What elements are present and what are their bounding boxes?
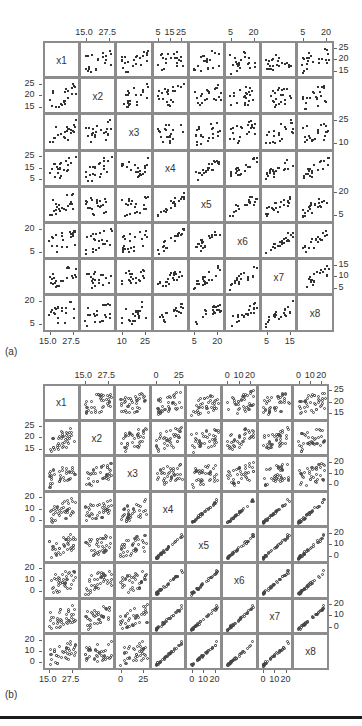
data-point: [119, 398, 122, 401]
data-point: [103, 157, 105, 159]
scatter-cell: [43, 420, 80, 457]
scatter-cell: [43, 222, 80, 259]
scatter-cell: [43, 491, 80, 528]
data-point: [255, 198, 257, 200]
axis-tick-label: 10: [25, 503, 35, 513]
data-point: [101, 406, 104, 409]
data-point: [275, 311, 277, 313]
data-point: [107, 134, 109, 136]
bottom-rule: [0, 716, 362, 719]
data-point: [248, 62, 250, 64]
data-point: [210, 445, 213, 448]
data-point: [314, 480, 317, 483]
data-point: [129, 100, 131, 102]
data-point: [48, 240, 50, 242]
data-point: [236, 473, 239, 476]
data-point: [315, 473, 318, 476]
data-point: [52, 273, 54, 275]
data-point: [307, 394, 310, 397]
scatter-cell: [152, 77, 189, 114]
data-point: [240, 477, 243, 480]
data-point: [198, 283, 200, 285]
data-point: [284, 538, 287, 541]
data-point: [290, 65, 292, 67]
data-point: [73, 571, 76, 574]
data-point: [70, 583, 73, 586]
variable-label: x4: [154, 163, 187, 174]
data-point: [134, 212, 136, 214]
data-point: [211, 128, 213, 130]
data-point: [86, 657, 89, 660]
data-point: [99, 206, 101, 208]
data-point: [326, 234, 328, 236]
data-point: [55, 106, 57, 108]
data-point: [62, 280, 64, 282]
data-point: [287, 572, 290, 575]
data-point: [262, 406, 265, 409]
data-point: [321, 239, 323, 241]
data-point: [236, 321, 238, 323]
data-point: [315, 238, 317, 240]
scatter-cell: [224, 186, 261, 223]
data-point: [196, 323, 198, 325]
data-point: [157, 95, 159, 97]
data-point: [306, 125, 308, 127]
data-point: [287, 205, 289, 207]
tick-mark: [121, 670, 122, 673]
data-point: [230, 173, 232, 175]
data-point: [135, 653, 138, 656]
data-point: [202, 483, 205, 486]
data-point: [173, 396, 176, 399]
data-point: [125, 447, 128, 450]
tick-mark: [321, 381, 322, 384]
data-point: [252, 395, 255, 398]
data-point: [49, 663, 52, 666]
data-point: [249, 166, 251, 168]
data-point: [85, 514, 88, 517]
data-point: [277, 433, 280, 436]
data-point: [323, 498, 326, 501]
data-point: [246, 93, 248, 95]
data-point: [239, 89, 241, 91]
data-point: [95, 249, 97, 251]
axis-tick-label: 20: [25, 295, 35, 305]
data-point: [195, 171, 197, 173]
data-point: [219, 304, 221, 306]
data-point: [272, 170, 274, 172]
data-point: [195, 135, 197, 137]
data-point: [275, 98, 277, 100]
tick-mark: [334, 120, 337, 121]
diagonal-cell-x7: x7: [260, 258, 297, 295]
data-point: [96, 538, 99, 541]
data-point: [270, 68, 272, 70]
data-point: [51, 245, 53, 247]
data-point: [86, 610, 89, 613]
data-point: [268, 131, 270, 133]
data-point: [306, 397, 309, 400]
data-point: [232, 127, 234, 129]
data-point: [322, 478, 325, 481]
scatter-cell: [79, 455, 116, 492]
data-point: [313, 280, 315, 282]
data-point: [270, 95, 272, 97]
data-point: [124, 62, 126, 64]
axis-tick-label: 20: [25, 223, 35, 233]
data-point: [107, 512, 110, 515]
scatter-cell: [150, 420, 187, 457]
tick-mark: [326, 38, 327, 41]
data-point: [67, 442, 70, 445]
scatter-cell: [292, 562, 329, 599]
data-point: [207, 577, 210, 580]
data-point: [66, 170, 68, 172]
data-point: [210, 576, 213, 579]
data-point: [74, 244, 76, 246]
data-point: [67, 128, 69, 130]
data-point: [141, 570, 144, 573]
data-point: [321, 429, 324, 432]
data-point: [165, 211, 167, 213]
data-point: [285, 437, 288, 440]
data-point: [132, 589, 135, 592]
data-point: [173, 53, 175, 55]
data-point: [252, 99, 254, 101]
data-point: [196, 97, 198, 99]
